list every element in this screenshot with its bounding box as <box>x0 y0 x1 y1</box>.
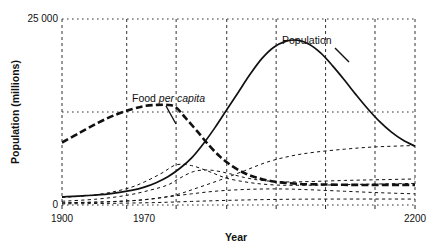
y-axis-title: Population (millions) <box>9 60 21 164</box>
svg-text:Food per capita: Food per capita <box>132 92 205 104</box>
top-cropped-caption <box>30 0 420 8</box>
annotation-food-per-capita: Food per capita <box>132 92 205 124</box>
y-tick-label-top: 25 000 <box>27 13 58 24</box>
chart-figure: 25 000 0 1900 1970 2200 Year Population … <box>0 0 443 249</box>
population-food-chart: 25 000 0 1900 1970 2200 Year Population … <box>0 0 443 249</box>
series-pollution <box>62 145 415 202</box>
x-tick-marks <box>62 205 415 209</box>
x-tick-label-2200: 2200 <box>404 213 427 224</box>
food-leader-line <box>166 106 176 124</box>
x-tick-label-1900: 1900 <box>51 213 74 224</box>
data-curves <box>62 40 415 204</box>
horizontal-gridlines <box>62 19 415 205</box>
y-tick-label-bottom: 0 <box>52 199 58 210</box>
svg-text:Population: Population <box>282 34 332 46</box>
population-leader-line <box>335 48 349 62</box>
x-tick-label-1970: 1970 <box>133 213 156 224</box>
x-axis-title: Year <box>225 231 247 243</box>
